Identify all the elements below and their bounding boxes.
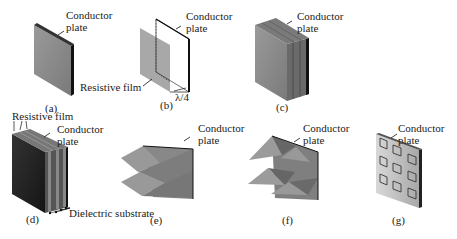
panel-b-label-conductor: Conductor — [186, 11, 232, 22]
panel-d-label-dielectric-substrate: Dielectric substrate — [69, 208, 154, 219]
panel-d-caption: (d) — [26, 214, 39, 225]
panel-b-caption: (b) — [160, 100, 173, 111]
panel-c-caption: (c) — [276, 102, 288, 113]
panel-e-caption: (e) — [150, 215, 162, 226]
panel-f-caption: (f) — [282, 215, 293, 226]
panel-b-diagram — [140, 19, 189, 92]
panel-c-label-conductor: Conductor — [297, 11, 343, 22]
panel-e-label-conductor: Conductor — [198, 123, 244, 134]
panel-e-sawtooth — [121, 137, 193, 199]
panel-a-plate — [34, 23, 74, 96]
panel-f-label-plate: plate — [303, 135, 324, 146]
panel-d-label-plate: plate — [57, 136, 78, 147]
panel-d-label-conductor: Conductor — [57, 124, 103, 135]
panel-d-label-resistive-film: Resistive film — [12, 111, 73, 122]
panel-b-label-resistive-film: Resistive film — [80, 82, 141, 93]
leader-line — [58, 31, 64, 35]
panel-g-label-conductor: Conductor — [398, 123, 444, 134]
panel-b-label-plate: plate — [186, 23, 207, 34]
panel-g-caption: (g) — [392, 215, 405, 226]
panel-b-label-lambda: λ/4 — [175, 92, 189, 103]
panel-a-label-conductor: Conductor — [66, 10, 112, 21]
panel-g-label-plate: plate — [398, 135, 419, 146]
panel-e-label-plate: plate — [198, 135, 219, 146]
panel-c-label-plate: plate — [297, 23, 318, 34]
panel-f-label-conductor: Conductor — [303, 123, 349, 134]
panel-a-label-plate: plate — [66, 22, 87, 33]
